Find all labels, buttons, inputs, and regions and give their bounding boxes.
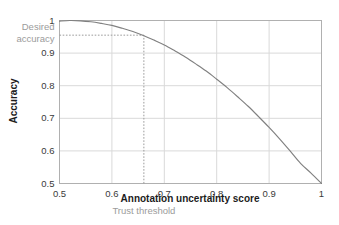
y-tick-label-4: 0.9 [41, 48, 54, 58]
x-tick-label-0: 0.5 [53, 189, 66, 199]
desired-accuracy-annotation-label: Desired accuracy [16, 21, 54, 44]
x-tick-label-4: 0.9 [262, 189, 275, 199]
y-tick-label-1: 0.6 [41, 146, 54, 156]
x-tick-label-5: 1 [319, 189, 324, 199]
chart-figure: 0.50.60.70.80.91 0.50.60.70.80.91 Accura… [0, 0, 339, 225]
series-curve [60, 20, 322, 183]
x-axis-title: Annotation uncertainty score [121, 193, 260, 204]
annotation-lines [60, 35, 144, 183]
desired-accuracy-line-1: Desired [16, 21, 54, 33]
plot-border [60, 21, 322, 184]
desired-accuracy-line-2: accuracy [16, 33, 54, 45]
y-axis-title: Accuracy [8, 78, 19, 123]
trust-threshold-annotation-label: Trust threshold [112, 205, 175, 216]
axis-frame [60, 21, 322, 184]
gridlines [60, 21, 322, 184]
y-tick-label-3: 0.8 [41, 81, 54, 91]
series-path-0 [60, 20, 322, 183]
y-tick-label-2: 0.7 [41, 114, 54, 124]
x-tick-label-1: 0.6 [105, 189, 118, 199]
